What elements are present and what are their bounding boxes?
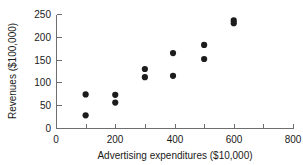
y-tick-label-0: 0 xyxy=(45,123,51,134)
x-axis-title: Advertising expenditures ($10,000) xyxy=(97,150,252,161)
data-point xyxy=(142,66,148,72)
x-tick-label-0: 0 xyxy=(53,134,59,145)
x-tick-label-400: 400 xyxy=(167,134,184,145)
data-point xyxy=(112,92,118,98)
data-point xyxy=(170,73,176,79)
data-point xyxy=(83,91,89,97)
x-tick-label-600: 600 xyxy=(226,134,243,145)
scatter-chart-figure: 250 200 150 100 50 0 0 200 400 600 800 A… xyxy=(0,0,303,165)
data-point xyxy=(231,20,237,26)
data-point xyxy=(83,112,89,118)
data-point xyxy=(201,42,207,48)
y-tick-label-50: 50 xyxy=(40,100,52,111)
data-point xyxy=(112,99,118,105)
y-tick-label-250: 250 xyxy=(34,9,51,20)
x-tick-label-800: 800 xyxy=(285,134,302,145)
data-point xyxy=(142,74,148,80)
scatter-plot-canvas: 250 200 150 100 50 0 0 200 400 600 800 A… xyxy=(0,0,303,165)
data-point xyxy=(170,50,176,56)
data-point xyxy=(201,56,207,62)
y-axis-title: Revenues ($100,000) xyxy=(7,23,18,119)
x-tick-label-200: 200 xyxy=(107,134,124,145)
y-tick-label-100: 100 xyxy=(34,77,51,88)
y-tick-label-200: 200 xyxy=(34,32,51,43)
y-tick-label-150: 150 xyxy=(34,55,51,66)
